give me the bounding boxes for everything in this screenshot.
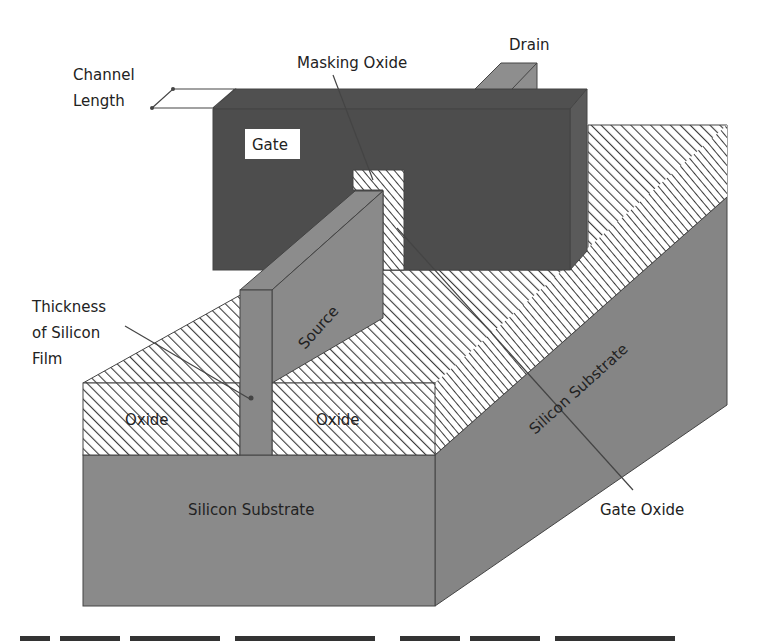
- drain-label: Drain: [509, 36, 550, 54]
- gate-side-face: [570, 89, 587, 270]
- drain-block: [475, 63, 537, 89]
- oxide-left-label: Oxide: [125, 411, 169, 429]
- gate-oxide-label: Gate Oxide: [600, 501, 684, 519]
- channel-label-line2: Length: [73, 92, 125, 110]
- substrate-front-label: Silicon Substrate: [188, 501, 314, 519]
- masking-oxide-label: Masking Oxide: [297, 54, 407, 72]
- caption-fragment: [20, 636, 675, 641]
- silicon-fin: [240, 290, 272, 455]
- thickness-label-line3: Film: [32, 350, 62, 368]
- oxide-right-label: Oxide: [316, 411, 360, 429]
- substrate-front-face: [83, 455, 435, 606]
- channel-label-line1: Channel: [73, 66, 135, 84]
- gate-label: Gate: [252, 136, 288, 154]
- gate-top-face: [213, 89, 587, 109]
- thickness-label-line2: of Silicon: [32, 324, 100, 342]
- thickness-label-line1: Thickness: [31, 298, 106, 316]
- finfet-diagram: Gate Channel Length Masking Oxide Drain …: [0, 0, 757, 641]
